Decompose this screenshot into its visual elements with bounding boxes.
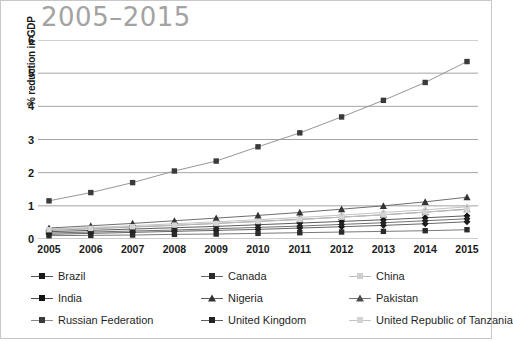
legend-label-united-kingdom: United Kingdom bbox=[228, 314, 306, 326]
legend-marker-triangle bbox=[208, 295, 216, 302]
legend-swatch-india bbox=[31, 293, 53, 304]
data-point-marker bbox=[172, 168, 177, 173]
chart-legend: Brazil Canada China India Nigeria Pakist… bbox=[31, 265, 483, 331]
plot-area: % reduction in GDP 012345620052006200720… bbox=[38, 40, 478, 239]
data-point-marker bbox=[297, 217, 302, 222]
data-point-marker bbox=[463, 194, 470, 201]
data-point-marker bbox=[88, 190, 93, 195]
legend-item-russian-federation[interactable]: Russian Federation bbox=[31, 314, 201, 326]
legend-swatch-china bbox=[349, 271, 371, 282]
legend-label-canada: Canada bbox=[228, 270, 267, 282]
x-tick-label: 2015 bbox=[455, 244, 478, 255]
data-point-marker bbox=[88, 226, 93, 231]
x-tick-label: 2007 bbox=[121, 244, 144, 255]
chart-frame: 2005–2015 % reduction in GDP 01234562005… bbox=[0, 0, 492, 339]
y-tick-label: 2 bbox=[28, 167, 34, 178]
legend-label-brazil: Brazil bbox=[58, 270, 86, 282]
series-russian-federation bbox=[46, 59, 469, 204]
legend-swatch-united-republic-of-tanzania bbox=[349, 315, 371, 326]
legend-swatch-brazil bbox=[31, 271, 53, 282]
data-point-marker bbox=[214, 231, 219, 236]
y-tick-label: 4 bbox=[28, 101, 34, 112]
y-axis-title: % reduction in GDP bbox=[26, 0, 37, 106]
y-tick-label: 6 bbox=[28, 35, 34, 46]
legend-label-india: India bbox=[58, 292, 82, 304]
x-tick-label: 2009 bbox=[205, 244, 228, 255]
data-point-marker bbox=[255, 219, 260, 224]
chart-title: 2005–2015 bbox=[41, 2, 191, 32]
data-point-marker bbox=[464, 207, 469, 212]
x-tick-label: 2014 bbox=[414, 244, 437, 255]
x-tick-label: 2005 bbox=[37, 244, 60, 255]
data-point-marker bbox=[381, 212, 386, 217]
data-point-marker bbox=[255, 144, 260, 149]
data-point-marker bbox=[172, 222, 177, 227]
data-point-marker bbox=[46, 227, 51, 232]
data-point-marker bbox=[255, 231, 260, 236]
legend-item-united-kingdom[interactable]: United Kingdom bbox=[201, 314, 349, 326]
plot-svg bbox=[38, 40, 478, 239]
y-tick-label: 0 bbox=[28, 234, 34, 245]
legend-item-china[interactable]: China bbox=[349, 270, 513, 282]
legend-marker-square bbox=[39, 317, 45, 323]
x-tick-label: 2008 bbox=[163, 244, 186, 255]
data-point-marker bbox=[381, 98, 386, 103]
legend-item-united-republic-of-tanzania[interactable]: United Republic of Tanzania bbox=[349, 314, 513, 326]
legend-label-china: China bbox=[376, 270, 405, 282]
data-point-marker bbox=[297, 130, 302, 135]
legend-label-russian-federation: Russian Federation bbox=[58, 314, 153, 326]
data-point-marker bbox=[339, 114, 344, 119]
data-point-marker bbox=[339, 229, 344, 234]
legend-item-nigeria[interactable]: Nigeria bbox=[201, 292, 349, 304]
legend-item-brazil[interactable]: Brazil bbox=[31, 270, 201, 282]
legend-marker-square bbox=[209, 273, 215, 279]
legend-item-india[interactable]: India bbox=[31, 292, 201, 304]
legend-item-canada[interactable]: Canada bbox=[201, 270, 349, 282]
x-tick-label: 2006 bbox=[79, 244, 102, 255]
x-tick-label: 2011 bbox=[288, 244, 311, 255]
legend-marker-diamond bbox=[209, 317, 215, 323]
legend-swatch-united-kingdom bbox=[201, 315, 223, 326]
data-point-marker bbox=[423, 209, 428, 214]
data-point-marker bbox=[339, 214, 344, 219]
data-point-marker bbox=[464, 59, 469, 64]
data-point-marker bbox=[214, 221, 219, 226]
data-point-marker bbox=[423, 228, 428, 233]
legend-swatch-canada bbox=[201, 271, 223, 282]
data-point-marker bbox=[130, 224, 135, 229]
legend-marker-diamond bbox=[357, 273, 363, 279]
data-point-marker bbox=[297, 230, 302, 235]
legend-marker-triangle bbox=[356, 295, 364, 302]
legend-swatch-nigeria bbox=[201, 293, 223, 304]
legend-item-pakistan[interactable]: Pakistan bbox=[349, 292, 513, 304]
x-tick-label: 2010 bbox=[246, 244, 269, 255]
legend-label-nigeria: Nigeria bbox=[228, 292, 263, 304]
y-tick-label: 1 bbox=[28, 200, 34, 211]
data-point-marker bbox=[381, 229, 386, 234]
series-line bbox=[49, 62, 467, 201]
legend-label-pakistan: Pakistan bbox=[376, 292, 418, 304]
legend-marker-diamond bbox=[39, 295, 45, 301]
x-tick-label: 2013 bbox=[372, 244, 395, 255]
data-point-marker bbox=[464, 227, 469, 232]
data-point-marker bbox=[46, 198, 51, 203]
legend-marker-square bbox=[357, 317, 363, 323]
x-tick-label: 2012 bbox=[330, 244, 353, 255]
legend-swatch-russian-federation bbox=[31, 315, 53, 326]
data-point-marker bbox=[130, 180, 135, 185]
y-tick-label: 5 bbox=[28, 68, 34, 79]
legend-swatch-pakistan bbox=[349, 293, 371, 304]
legend-label-united-republic-of-tanzania: United Republic of Tanzania bbox=[376, 314, 513, 326]
data-point-marker bbox=[423, 80, 428, 85]
legend-marker-diamond bbox=[39, 273, 45, 279]
data-point-marker bbox=[214, 158, 219, 163]
y-tick-label: 3 bbox=[28, 134, 34, 145]
